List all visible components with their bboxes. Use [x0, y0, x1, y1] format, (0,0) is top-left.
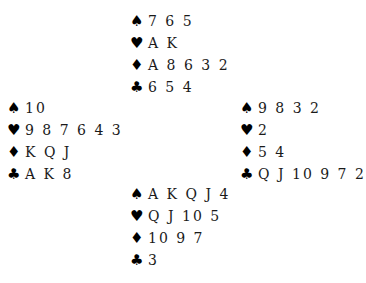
east-hearts: ♥2 — [240, 119, 366, 141]
south-hearts: ♥Q J 10 5 — [130, 205, 230, 227]
north-spades: ♠7 6 5 — [130, 10, 230, 32]
diamond-icon: ♦ — [240, 141, 254, 163]
south-hand: ♠A K Q J 4 ♥Q J 10 5 ♦10 9 7 ♣3 — [130, 183, 230, 271]
heart-icon: ♥ — [240, 119, 254, 141]
spade-icon: ♠ — [130, 183, 144, 205]
west-hearts: ♥9 8 7 6 4 3 — [7, 119, 123, 141]
club-icon: ♣ — [7, 163, 21, 185]
club-icon: ♣ — [130, 249, 144, 271]
west-hand: ♠10 ♥9 8 7 6 4 3 ♦K Q J ♣A K 8 — [7, 97, 123, 185]
south-spades: ♠A K Q J 4 — [130, 183, 230, 205]
east-clubs: ♣Q J 10 9 7 2 — [240, 163, 366, 185]
east-diamonds: ♦5 4 — [240, 141, 366, 163]
diamond-icon: ♦ — [7, 141, 21, 163]
west-spades: ♠10 — [7, 97, 123, 119]
spade-icon: ♠ — [7, 97, 21, 119]
club-icon: ♣ — [130, 76, 144, 98]
north-hand: ♠7 6 5 ♥A K ♦A 8 6 3 2 ♣6 5 4 — [130, 10, 230, 98]
spade-icon: ♠ — [240, 97, 254, 119]
east-spades: ♠9 8 3 2 — [240, 97, 366, 119]
north-hearts: ♥A K — [130, 32, 230, 54]
north-diamonds: ♦A 8 6 3 2 — [130, 54, 230, 76]
west-diamonds: ♦K Q J — [7, 141, 123, 163]
diamond-icon: ♦ — [130, 54, 144, 76]
south-clubs: ♣3 — [130, 249, 230, 271]
north-clubs: ♣6 5 4 — [130, 76, 230, 98]
east-hand: ♠9 8 3 2 ♥2 ♦5 4 ♣Q J 10 9 7 2 — [240, 97, 366, 185]
spade-icon: ♠ — [130, 10, 144, 32]
south-diamonds: ♦10 9 7 — [130, 227, 230, 249]
heart-icon: ♥ — [7, 119, 21, 141]
heart-icon: ♥ — [130, 205, 144, 227]
club-icon: ♣ — [240, 163, 254, 185]
west-clubs: ♣A K 8 — [7, 163, 123, 185]
diamond-icon: ♦ — [130, 227, 144, 249]
heart-icon: ♥ — [130, 32, 144, 54]
